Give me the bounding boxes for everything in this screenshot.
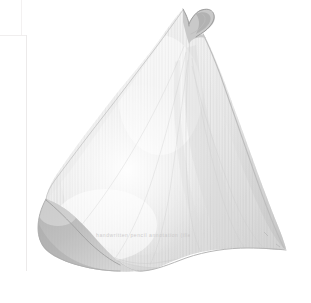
pencil-inscription: handwritten pencil annotation (illegible… [96, 231, 190, 239]
leaf-illustration [0, 0, 311, 303]
illustration-canvas: handwritten pencil annotation (illegible… [0, 0, 311, 303]
leaf-body-group [0, 0, 311, 303]
